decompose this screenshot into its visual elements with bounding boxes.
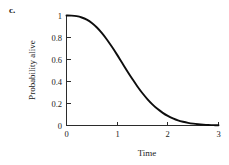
x-tick-label: 3 bbox=[216, 129, 220, 139]
y-tick-label: 0.4 bbox=[51, 77, 62, 87]
x-axis-title: Time bbox=[138, 148, 157, 158]
figure-panel: c. 1 0.8 0.6 0.4 0.2 0 bbox=[0, 0, 229, 165]
y-tick-label: 0.8 bbox=[51, 33, 62, 43]
y-axis-title: Probability alive bbox=[27, 40, 37, 100]
y-tick-label: 0.2 bbox=[51, 99, 62, 109]
x-tick-label: 2 bbox=[165, 129, 169, 139]
survival-curve-chart: 1 0.8 0.6 0.4 0.2 0 0 1 2 3 Probability … bbox=[0, 0, 229, 165]
x-tick-label: 1 bbox=[115, 129, 119, 139]
y-tick-label: 0.6 bbox=[51, 55, 62, 65]
y-axis-tick-labels: 1 0.8 0.6 0.4 0.2 0 bbox=[51, 11, 62, 131]
x-axis-tick-labels: 0 1 2 3 bbox=[64, 129, 220, 139]
survival-curve-line bbox=[67, 16, 219, 126]
x-tick-label: 0 bbox=[64, 129, 68, 139]
y-tick-label: 1 bbox=[58, 11, 62, 21]
y-axis-ticks bbox=[67, 16, 71, 126]
y-tick-label: 0 bbox=[58, 121, 62, 131]
